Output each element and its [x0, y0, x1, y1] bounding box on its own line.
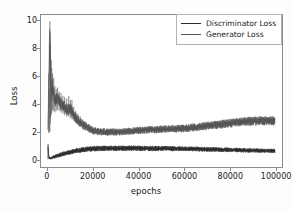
y-axis-label: Loss — [9, 66, 19, 126]
x-tick-label: 60000 — [172, 172, 197, 181]
y-tick-label: 2 — [7, 128, 37, 137]
x-tick-mark — [230, 168, 231, 171]
x-tick-label: 40000 — [126, 172, 151, 181]
y-tick-label: 0 — [7, 156, 37, 165]
legend-swatch-discriminator-loss — [181, 23, 201, 24]
series-band — [48, 146, 275, 160]
x-tick-label: 80000 — [218, 172, 243, 181]
legend-item-generator-loss: Generator Loss — [181, 29, 277, 40]
series-discriminator-loss — [48, 144, 275, 159]
chart-legend: Discriminator Loss Generator Loss — [176, 14, 282, 45]
y-tick-mark — [37, 104, 40, 105]
y-tick-mark — [37, 48, 40, 49]
y-tick-label: 10 — [7, 16, 37, 25]
x-tick-mark — [276, 168, 277, 171]
x-axis-label: epochs — [0, 186, 292, 196]
x-tick-mark — [184, 168, 185, 171]
x-tick-mark — [139, 168, 140, 171]
legend-label-discriminator-loss: Discriminator Loss — [206, 18, 276, 29]
x-tick-label: 100000 — [261, 172, 292, 181]
x-tick-label: 0 — [44, 172, 49, 181]
y-tick-mark — [37, 20, 40, 21]
y-tick-mark — [37, 132, 40, 133]
y-tick-mark — [37, 76, 40, 77]
y-tick-label: 8 — [7, 44, 37, 53]
x-tick-mark — [47, 168, 48, 171]
legend-label-generator-loss: Generator Loss — [206, 29, 264, 40]
chart-figure: 0246810 020000400006000080000100000 Loss… — [0, 0, 292, 212]
x-tick-mark — [93, 168, 94, 171]
x-tick-label: 20000 — [80, 172, 105, 181]
y-tick-mark — [37, 160, 40, 161]
legend-swatch-generator-loss — [181, 34, 201, 35]
legend-item-discriminator-loss: Discriminator Loss — [181, 18, 277, 29]
